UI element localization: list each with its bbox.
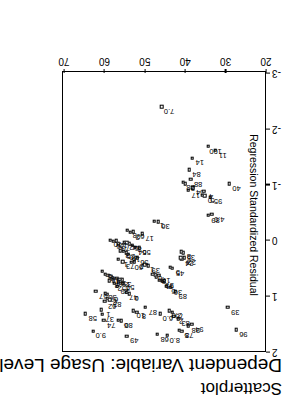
data-point: [126, 229, 129, 232]
data-point-label: 1: [160, 222, 164, 230]
y-tick: [266, 72, 270, 73]
data-point: [153, 219, 156, 222]
data-point: [155, 333, 158, 336]
y-tick: [266, 296, 270, 297]
data-point: [109, 238, 112, 241]
data-point: [202, 190, 205, 193]
x-tick: [104, 69, 105, 73]
data-point-label: 5: [176, 268, 180, 276]
data-point-label: 8.0: [170, 336, 180, 344]
data-point-label: 7.0: [164, 107, 174, 115]
data-points-layer: 963994987858.068832752.06.087810806499.0…: [63, 72, 265, 351]
data-point-label: 14: [196, 159, 204, 167]
data-point-label: 95: [214, 198, 222, 206]
data-point: [180, 250, 183, 253]
data-point-label: 49: [130, 337, 138, 345]
data-point: [177, 329, 180, 332]
data-point-label: 1: [124, 260, 128, 268]
data-point-label: 58: [89, 314, 97, 322]
data-point-label: 6: [124, 321, 128, 329]
data-point-label: 6: [158, 275, 162, 283]
y-axis-label: Regression Standardized Residual: [248, 115, 260, 315]
y-tick-label: 1: [272, 291, 292, 302]
data-point-label: 17: [146, 235, 154, 243]
data-point-label: 1: [106, 310, 110, 318]
y-tick: [266, 184, 270, 185]
data-point: [184, 182, 187, 185]
data-point: [227, 182, 230, 185]
x-tick-label: 50: [139, 56, 150, 67]
plot-area: 963994987858.068832752.06.087810806499.0…: [62, 71, 266, 352]
data-point: [201, 194, 204, 197]
data-point-label: 4: [209, 192, 213, 200]
y-tick: [266, 128, 270, 129]
data-point-label: 9.0: [96, 332, 106, 340]
data-point: [234, 328, 237, 331]
x-tick: [185, 69, 186, 73]
x-tick: [63, 69, 64, 73]
data-point-label: 2: [129, 243, 133, 251]
y-tick: [266, 351, 270, 352]
x-tick: [225, 69, 226, 73]
data-point: [168, 309, 171, 312]
y-tick-label: -2: [272, 123, 292, 134]
data-point-label: 2: [191, 184, 195, 192]
data-point-label: 96: [239, 331, 247, 339]
x-tick-label: 30: [220, 56, 231, 67]
data-point-label: 2.0: [172, 312, 182, 320]
data-point-label: 2: [113, 299, 117, 307]
data-point-label: 5: [108, 272, 112, 280]
data-point: [117, 258, 120, 261]
chart-title: Scatterplot: [201, 378, 282, 398]
data-point-label: 88: [194, 180, 202, 188]
data-point-label: 40: [232, 184, 240, 192]
data-point: [206, 214, 209, 217]
data-point-label: 39: [231, 308, 239, 316]
data-point-label: 8: [187, 252, 191, 260]
data-point: [106, 296, 109, 299]
data-point: [125, 334, 128, 337]
data-point: [101, 312, 104, 315]
data-point: [187, 168, 190, 171]
x-tick-label: 70: [58, 56, 69, 67]
x-tick-label: 60: [99, 56, 110, 67]
chart-subtitle: Dependent Variable: Usage Level: [0, 354, 282, 376]
data-point: [94, 290, 97, 293]
data-point: [191, 156, 194, 159]
data-point: [169, 266, 172, 269]
data-point: [160, 105, 163, 108]
y-tick: [266, 240, 270, 241]
x-tick: [144, 69, 145, 73]
data-point-label: 60: [135, 263, 143, 271]
data-point: [159, 312, 162, 315]
y-tick-label: 0: [272, 235, 292, 246]
x-tick-label: 40: [180, 56, 191, 67]
y-tick-label: -1: [272, 179, 292, 190]
data-point-label: 70: [114, 241, 122, 249]
data-point-label: 87: [149, 308, 157, 316]
data-point: [144, 306, 147, 309]
data-point-label: 10: [137, 312, 145, 320]
scatterplot-figure: Scatterplot Dependent Variable: Usage Le…: [0, 0, 292, 406]
data-point: [226, 306, 229, 309]
data-point: [179, 256, 182, 259]
data-point-label: 100: [209, 147, 222, 155]
data-point-label: 68: [160, 335, 168, 343]
data-point-label: 5: [184, 331, 188, 339]
data-point-label: 1: [150, 265, 154, 273]
data-point-label: 84: [192, 170, 200, 178]
data-point: [99, 308, 102, 311]
y-tick-label: 2: [272, 347, 292, 358]
data-point-label: 47: [129, 293, 137, 301]
data-point: [101, 270, 104, 273]
data-point-label: 6.0: [163, 314, 173, 322]
data-point: [84, 312, 87, 315]
data-point-label: 8: [133, 231, 137, 239]
data-point-label: 89: [211, 216, 219, 224]
data-point: [92, 329, 95, 332]
x-tick-label: 20: [260, 56, 271, 67]
y-tick-label: -3: [272, 68, 292, 79]
data-point: [117, 319, 120, 322]
data-point: [132, 309, 135, 312]
